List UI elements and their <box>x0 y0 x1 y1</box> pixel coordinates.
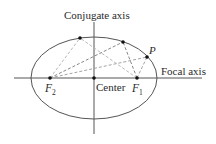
f1-label-sub: 1 <box>139 88 143 97</box>
focal-axis-label: Focal axis <box>161 65 206 77</box>
ellipse-diagram: Conjugate axis Focal axis Center F2 F1 P <box>0 0 216 144</box>
f2-label: F2 <box>44 82 56 97</box>
point-b <box>121 40 125 44</box>
dashed-lines-f1 <box>80 38 147 78</box>
f1-label: F1 <box>131 82 143 97</box>
conjugate-axis-label: Conjugate axis <box>64 9 130 21</box>
p-label: P <box>148 44 156 56</box>
f2-label-sub: 2 <box>52 88 56 97</box>
dashed-lines-f2 <box>50 38 147 78</box>
center-point <box>92 76 96 80</box>
focus-f2-point <box>48 76 52 80</box>
focus-f1-point <box>135 76 139 80</box>
f1-to-point-p <box>137 57 147 78</box>
center-label: Center <box>96 81 126 93</box>
f2-to-point-a <box>50 38 80 78</box>
point-a <box>78 36 82 40</box>
